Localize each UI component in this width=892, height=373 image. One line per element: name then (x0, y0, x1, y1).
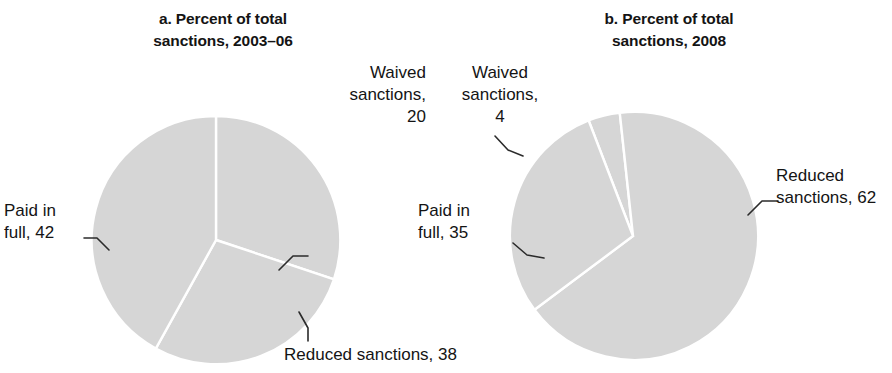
pie-chart-figure: a. Percent of total sanctions, 2003–06 W… (0, 0, 892, 373)
callout-b-paid-in-full: Paid in full, 35 (418, 200, 512, 244)
panel-a-title: a. Percent of total sanctions, 2003–06 (0, 8, 446, 53)
panel-b-title: b. Percent of total sanctions, 2008 (446, 8, 892, 53)
callout-a-paid-in-full: Paid in full, 42 (4, 200, 96, 244)
callout-b-waived-sanctions: Waived sanctions, 4 (440, 62, 560, 127)
callout-a-waived-sanctions: Waived sanctions, 20 (300, 62, 426, 127)
panel-a: a. Percent of total sanctions, 2003–06 (0, 0, 446, 373)
callout-b-reduced-sanctions: Reduced sanctions, 62 (776, 165, 892, 209)
